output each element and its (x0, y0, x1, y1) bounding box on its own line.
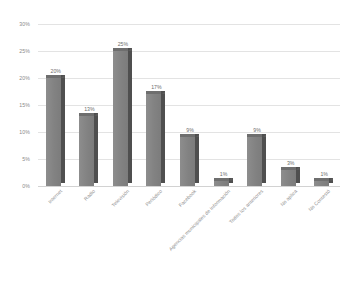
bar-side-face (262, 134, 266, 183)
bar-value-label: 17% (145, 84, 167, 90)
x-axis-tick-label: Internet (46, 188, 63, 205)
x-axis-tick-label: No Contestó (307, 188, 331, 212)
bar (214, 178, 233, 186)
bar-value-label: 3% (280, 160, 302, 166)
bar-value-label: 25% (112, 41, 134, 47)
bar-front-face (113, 51, 128, 186)
y-axis-tick-label: 0% (22, 183, 30, 189)
bar-value-label: 1% (313, 171, 335, 177)
y-axis-tick-label: 5% (22, 156, 30, 162)
bar (180, 134, 199, 186)
bar-top-face (281, 167, 296, 170)
y-axis-tick-label: 10% (19, 129, 30, 135)
y-axis-tick-label: 25% (19, 48, 30, 54)
bar-value-label: 13% (78, 106, 100, 112)
bar-side-face (128, 48, 132, 183)
bar-value-label: 9% (179, 127, 201, 133)
bar-side-face (195, 134, 199, 183)
bar-value-label: 20% (45, 68, 67, 74)
bar-value-label: 9% (246, 127, 268, 133)
bar-front-face (79, 116, 94, 186)
bar-value-label: 1% (213, 171, 235, 177)
gridline (38, 24, 340, 25)
x-axis-tick-label: Radio (83, 188, 97, 202)
bar (247, 134, 266, 186)
bar-front-face (146, 94, 161, 186)
bar-chart: 30%25%20%15%10%5%0% 20%13%25%17%9%1%9%3%… (0, 0, 355, 287)
bar-side-face (61, 75, 65, 183)
bar (79, 113, 98, 186)
bar (281, 167, 300, 186)
bar-front-face (247, 137, 262, 186)
bar (314, 178, 333, 186)
bar-front-face (214, 181, 229, 186)
gridline (38, 186, 340, 187)
bar-side-face (161, 91, 165, 183)
bar-top-face (247, 134, 262, 137)
bar-front-face (314, 181, 329, 186)
bar (46, 75, 65, 186)
bar-top-face (79, 113, 94, 116)
bar-top-face (146, 91, 161, 94)
plot-area: 20%13%25%17%9%1%9%3%1% (38, 24, 340, 186)
y-axis-tick-label: 20% (19, 75, 30, 81)
bar-top-face (314, 178, 329, 181)
x-axis-tick-label: Facebook (177, 188, 197, 208)
gridline (38, 78, 340, 79)
bar-front-face (281, 170, 296, 186)
y-axis-tick-label: 15% (19, 102, 30, 108)
y-axis: 30%25%20%15%10%5%0% (0, 24, 34, 186)
y-axis-tick-label: 30% (19, 21, 30, 27)
bar (146, 91, 165, 186)
x-axis-tick-label: Todos los anteriores (228, 188, 265, 225)
bar-top-face (214, 178, 229, 181)
gridline (38, 51, 340, 52)
bar-front-face (46, 78, 61, 186)
x-axis-tick-label: Televisión (110, 188, 130, 208)
bar (113, 48, 132, 186)
bar-top-face (46, 75, 61, 78)
x-axis-tick-label: Agencias municipales de información (167, 188, 231, 252)
x-axis: InternetRadioTelevisiónPeriódicoFacebook… (38, 188, 340, 287)
x-axis-tick-label: No aplica (279, 188, 298, 207)
bar-side-face (94, 113, 98, 183)
bar-top-face (113, 48, 128, 51)
bar-top-face (180, 134, 195, 137)
x-axis-tick-label: Periódico (144, 188, 163, 207)
bar-front-face (180, 137, 195, 186)
